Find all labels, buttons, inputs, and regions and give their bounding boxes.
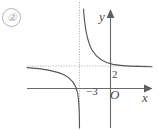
x-axis-label: x — [142, 90, 148, 106]
curve-branch-upper-right — [84, 9, 153, 67]
x-tick-label-negative-3: −3 — [86, 85, 98, 97]
curve-branch-lower-left — [27, 68, 80, 128]
y-axis-label: y — [99, 9, 105, 25]
math-figure-hyperbola: ② y x O 2 −3 — [0, 0, 159, 130]
y-axis-arrow-icon — [107, 9, 115, 18]
y-tick-label-2: 2 — [112, 68, 118, 80]
origin-label: O — [110, 87, 119, 103]
graph-canvas — [0, 0, 159, 130]
